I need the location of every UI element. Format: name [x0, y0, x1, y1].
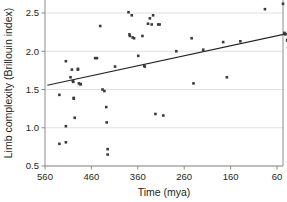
y-tick-label-2: 1.5 [26, 84, 39, 95]
scatter-plot: 56046036026016060 0.51.01.52.02.5 Time (… [0, 0, 287, 202]
y-tick-label-0: 0.5 [26, 160, 39, 171]
data-point [65, 141, 68, 144]
y-axis-ticks [42, 13, 46, 166]
x-axis-ticks [45, 166, 277, 170]
data-point [152, 14, 155, 17]
data-point [226, 76, 229, 79]
data-point [141, 35, 144, 38]
y-tick-label-3: 2.0 [26, 46, 39, 57]
data-point [114, 65, 117, 68]
x-tick-label-3: 260 [176, 171, 192, 182]
data-point [72, 97, 75, 100]
data-point [69, 76, 72, 79]
data-point [190, 37, 193, 40]
data-point [150, 23, 153, 26]
data-point [58, 143, 61, 146]
x-tick-label-5: 60 [272, 171, 283, 182]
data-point [65, 60, 68, 63]
data-point [175, 50, 178, 53]
data-point [72, 81, 75, 84]
x-tick-label-1: 460 [83, 171, 99, 182]
data-point [286, 39, 287, 42]
data-point [264, 8, 267, 11]
data-point [105, 121, 108, 124]
data-point [162, 114, 165, 117]
data-point [106, 153, 109, 156]
data-point [282, 3, 285, 6]
data-point [284, 33, 287, 36]
data-point [133, 37, 136, 40]
data-point [73, 117, 76, 120]
data-point [143, 65, 146, 68]
data-point [202, 48, 205, 51]
data-point [99, 25, 102, 28]
data-point [58, 94, 61, 97]
y-axis-title: Limb complexity (Brillouin index) [2, 8, 14, 159]
data-point [158, 23, 161, 26]
y-tick-label-1: 1.0 [26, 122, 39, 133]
data-point [137, 55, 140, 58]
data-point [77, 68, 80, 71]
x-tick-label-2: 360 [130, 171, 146, 182]
figure-container: 56046036026016060 0.51.01.52.02.5 Time (… [0, 0, 287, 202]
y-tick-label-4: 2.5 [26, 7, 39, 18]
data-point [149, 17, 152, 20]
data-point [103, 90, 106, 93]
data-point [239, 40, 242, 43]
x-axis-title: Time (mya) [138, 186, 191, 198]
data-point [147, 22, 150, 25]
data-point [105, 106, 108, 109]
data-point [130, 14, 133, 17]
x-axis-tick-labels: 56046036026016060 [37, 171, 282, 182]
data-point [79, 83, 82, 86]
data-point [106, 148, 109, 151]
data-point [129, 35, 132, 38]
data-point [154, 113, 157, 116]
data-point [127, 11, 130, 14]
data-point [192, 82, 195, 85]
data-point [71, 68, 74, 71]
x-tick-label-0: 560 [37, 171, 53, 182]
y-axis-tick-labels: 0.51.01.52.02.5 [26, 7, 39, 171]
data-point [96, 57, 99, 60]
data-point [65, 125, 68, 128]
data-point [222, 41, 225, 44]
x-tick-label-4: 160 [223, 171, 239, 182]
